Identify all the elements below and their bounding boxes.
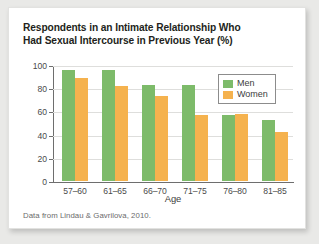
bar-men <box>62 70 75 181</box>
bar-men <box>142 85 155 181</box>
bar-women <box>155 96 168 181</box>
y-axis-tick-label: 20 <box>37 154 47 164</box>
y-axis-tick <box>49 182 53 183</box>
bar-men <box>182 85 195 181</box>
y-axis-tick <box>49 112 53 113</box>
source-note: Data from Lindau & Gavrilova, 2010. <box>23 211 151 220</box>
y-axis-tick <box>49 136 53 137</box>
x-axis-line <box>53 182 294 183</box>
bar-women <box>275 132 288 181</box>
page-title-line-1: Respondents in an Intimate Relationship … <box>23 22 241 33</box>
page-title: Respondents in an Intimate Relationship … <box>23 21 295 47</box>
legend-item-women: Women <box>223 89 268 100</box>
y-axis-tick <box>49 89 53 90</box>
bar-men <box>262 120 275 181</box>
y-axis-tick <box>49 66 53 67</box>
y-axis-line <box>53 66 54 183</box>
bar-men <box>222 115 235 181</box>
legend-label-women: Women <box>237 89 268 100</box>
bar-women <box>195 115 208 181</box>
bar-group <box>142 65 168 181</box>
chart-card: Respondents in an Intimate Relationship … <box>8 7 306 229</box>
gridline-y <box>53 136 293 137</box>
legend-swatch-women-icon <box>223 91 233 99</box>
legend-swatch-men-icon <box>223 80 233 88</box>
y-axis-tick <box>49 159 53 160</box>
gridline-y <box>53 159 293 160</box>
bar-women <box>115 86 128 181</box>
y-axis-tick-label: 0 <box>42 177 47 187</box>
page-title-line-2: Had Sexual Intercourse in Previous Year … <box>23 34 295 47</box>
gridline-y <box>53 112 293 113</box>
chart-legend: Men Women <box>218 74 276 104</box>
legend-item-men: Men <box>223 78 268 89</box>
bar-women <box>75 78 88 181</box>
y-axis-tick-label: 100 <box>33 61 47 71</box>
bar-group <box>182 65 208 181</box>
bar-men <box>102 70 115 181</box>
bar-women <box>235 114 248 181</box>
gridline-y <box>53 66 293 67</box>
y-axis-tick-label: 60 <box>37 107 47 117</box>
x-axis-title: Age <box>53 193 293 204</box>
legend-label-men: Men <box>237 78 255 89</box>
bar-group <box>102 65 128 181</box>
y-axis-tick-label: 80 <box>37 84 47 94</box>
bar-group <box>62 65 88 181</box>
y-axis-tick-label: 40 <box>37 131 47 141</box>
